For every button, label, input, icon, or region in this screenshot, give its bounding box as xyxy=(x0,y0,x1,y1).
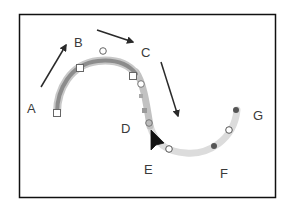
dark-dot-g xyxy=(233,107,239,113)
mid-square-1 xyxy=(139,94,143,98)
label-f: F xyxy=(220,166,228,181)
open-circle-c xyxy=(138,81,145,88)
square-marker-b xyxy=(77,65,84,72)
open-circle-e xyxy=(166,146,173,153)
label-g: G xyxy=(253,108,263,123)
curve-diagram: A B C D E F G xyxy=(0,0,289,208)
label-d: D xyxy=(121,121,130,136)
open-circle-fg xyxy=(226,127,233,134)
open-circle-d xyxy=(146,120,153,127)
mid-square-2 xyxy=(142,108,147,113)
square-marker-a xyxy=(54,110,61,117)
label-c: C xyxy=(141,45,150,60)
square-marker-c xyxy=(130,73,137,80)
label-b: B xyxy=(74,35,83,50)
open-circle-top xyxy=(100,48,107,55)
label-e: E xyxy=(144,162,153,177)
label-a: A xyxy=(27,101,36,116)
dark-dot-f xyxy=(211,143,217,149)
